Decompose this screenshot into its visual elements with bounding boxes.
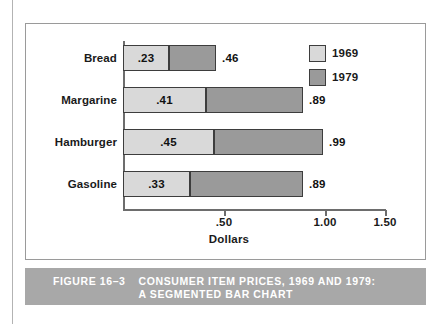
figure-container: .50 1.00 1.50 Dollars Bread .23 .46 Marg…: [25, 23, 428, 305]
figure-title: CONSUMER ITEM PRICES, 1969 AND 1979: A S…: [139, 275, 376, 301]
category-label-hamburger: Hamburger: [55, 136, 117, 148]
bar-value-hamburger-1969: .45: [160, 136, 177, 148]
bar-total-margarine: .89: [309, 94, 326, 106]
bar-value-gasoline-1969: .33: [148, 178, 165, 190]
legend-label-1979: 1979: [332, 71, 358, 83]
figure-title-line2: A SEGMENTED BAR CHART: [139, 288, 376, 301]
bar-total-gasoline: .89: [309, 178, 326, 190]
x-tick-label-2: 1.50: [373, 216, 396, 228]
bar-row-gasoline: Gasoline .33 .89: [123, 171, 303, 197]
bar-segment-bread-1979: [169, 45, 216, 71]
legend-swatch-1969-icon: [309, 45, 326, 62]
chart-panel: .50 1.00 1.50 Dollars Bread .23 .46 Marg…: [25, 23, 426, 260]
legend-label-1969: 1969: [332, 47, 358, 59]
legend-item-1979: 1979: [309, 67, 404, 87]
bar-segment-hamburger-1969: .45: [123, 129, 214, 155]
x-tick-label-0: .50: [216, 216, 233, 228]
x-axis-title: Dollars: [209, 233, 249, 245]
chart-legend: 1969 1979: [309, 43, 404, 91]
plot-area: .50 1.00 1.50 Dollars Bread .23 .46 Marg…: [26, 24, 427, 261]
legend-swatch-1979-icon: [309, 69, 326, 86]
bar-segment-margarine-1969: .41: [123, 87, 206, 113]
legend-item-1969: 1969: [309, 43, 404, 63]
bar-row-bread: Bread .23 .46: [123, 45, 216, 71]
bar-value-bread-1969: .23: [138, 52, 155, 64]
figure-number: FIGURE 16–3: [53, 275, 126, 287]
bar-total-bread: .46: [222, 52, 239, 64]
x-axis-line: [123, 209, 386, 211]
x-tick-label-1: 1.00: [313, 216, 336, 228]
figure-caption-bar: FIGURE 16–3 CONSUMER ITEM PRICES, 1969 A…: [25, 268, 426, 305]
bar-total-hamburger: .99: [329, 136, 346, 148]
bar-row-margarine: Margarine .41 .89: [123, 87, 303, 113]
bar-row-hamburger: Hamburger .45 .99: [123, 129, 323, 155]
figure-caption: FIGURE 16–3 CONSUMER ITEM PRICES, 1969 A…: [53, 275, 376, 301]
bar-segment-gasoline-1979: [190, 171, 303, 197]
figure-title-line1: CONSUMER ITEM PRICES, 1969 AND 1979:: [139, 275, 376, 288]
page-margin-rule: [12, 0, 13, 324]
category-label-margarine: Margarine: [61, 94, 117, 106]
bar-segment-margarine-1979: [206, 87, 303, 113]
bar-segment-gasoline-1969: .33: [123, 171, 190, 197]
category-label-gasoline: Gasoline: [68, 178, 117, 190]
category-label-bread: Bread: [84, 52, 117, 64]
bar-segment-bread-1969: .23: [123, 45, 169, 71]
bar-segment-hamburger-1979: [214, 129, 323, 155]
bar-value-margarine-1969: .41: [156, 94, 173, 106]
